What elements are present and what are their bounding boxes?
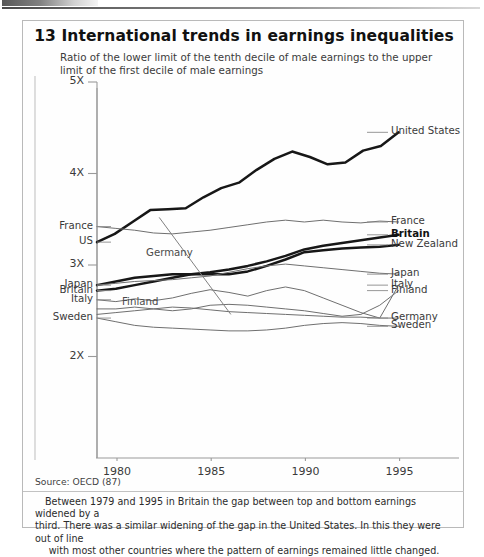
footer-divider: [23, 491, 464, 492]
right-series-label-sweden: Sweden: [391, 319, 431, 330]
scan-horizontal-rule: [2, 7, 480, 9]
left-series-label-italy: Italy: [23, 293, 93, 304]
figure-panel: 13 International trends in earnings ineq…: [22, 20, 464, 528]
line-chart-plot-area: 2X3X4X5X1980198519901995FranceUSJapanBri…: [23, 21, 465, 461]
right-series-label-finland: Finland: [391, 284, 427, 295]
series-line-japan: [97, 264, 399, 285]
y-tick-label: 4X: [60, 166, 84, 179]
right-series-label-france: France: [391, 215, 425, 226]
inner-series-label-finland: Finland: [122, 296, 158, 307]
footnote-line-1: Between 1979 and 1995 in Britain the gap…: [35, 496, 453, 520]
series-line-britain: [97, 235, 399, 291]
footnote-line-2: third. There was a similar widening of t…: [35, 520, 453, 544]
series-line-united-states: [97, 132, 399, 242]
series-line-germany: [97, 307, 399, 318]
right-series-label-japan: Japan: [391, 267, 419, 278]
page-scan-edge-artifact: [0, 0, 484, 12]
inner-series-label-germany: Germany: [146, 247, 193, 258]
left-series-label-sweden: Sweden: [23, 311, 93, 322]
series-line-france: [97, 220, 399, 234]
source-note: Source: OECD (87): [35, 476, 455, 487]
left-series-label-us: US: [23, 235, 93, 246]
y-tick-label: 2X: [60, 349, 84, 362]
right-series-label-united-states: United States: [391, 125, 460, 136]
scan-smudge: [2, 0, 98, 6]
left-series-label-france: France: [23, 220, 93, 231]
footnote-line-3: with most other countries where the patt…: [35, 545, 453, 557]
y-tick-label: 3X: [60, 257, 84, 270]
y-tick-label: 5X: [60, 74, 84, 87]
figure-footnote: Between 1979 and 1995 in Britain the gap…: [35, 496, 453, 557]
right-series-label-new-zealand: New Zealand: [391, 238, 458, 249]
series-line-sweden: [97, 318, 399, 331]
